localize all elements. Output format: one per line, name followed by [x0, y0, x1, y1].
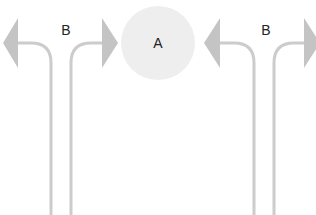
arrow-right-icon	[102, 18, 118, 68]
arrow-right-icon	[304, 18, 316, 68]
left-branch-line	[220, 43, 254, 215]
right-branch-line	[71, 43, 102, 215]
group-b-left	[3, 18, 118, 215]
left-branch-line	[18, 43, 51, 215]
group-b-right-label: B	[261, 23, 270, 37]
group-b-right	[204, 18, 316, 215]
group-b-left-label: B	[61, 23, 70, 37]
arrow-left-icon	[3, 18, 18, 68]
right-branch-line	[274, 43, 304, 215]
node-a-label: A	[153, 36, 162, 50]
arrow-left-icon	[204, 18, 220, 68]
diagram-canvas: A B B	[0, 0, 316, 215]
